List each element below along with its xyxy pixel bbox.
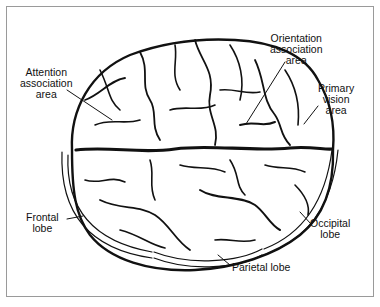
label-orientation-area: Orientation association area — [270, 33, 323, 66]
label-attention-area: Attention association area — [20, 67, 73, 100]
label-frontal-lobe: Frontal lobe — [26, 212, 59, 234]
central-fissure — [76, 147, 332, 150]
brain-illustration — [0, 0, 380, 307]
vision-leader — [304, 106, 318, 124]
attention-leader — [67, 90, 112, 120]
brain-outline — [72, 40, 334, 271]
label-occipital-lobe: Occipital lobe — [310, 218, 350, 240]
label-vision-area: Primary vision area — [318, 83, 354, 116]
label-parietal-lobe: Parietal lobe — [232, 262, 290, 273]
